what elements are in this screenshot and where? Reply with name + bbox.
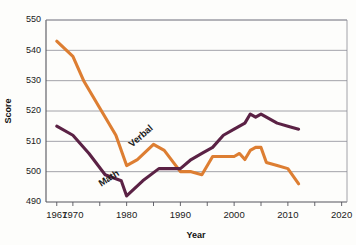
y-tick-label: 490	[26, 196, 41, 206]
y-tick-label: 520	[26, 105, 41, 115]
series-line-verbal	[57, 41, 299, 184]
y-axis-tick-labels: 490500510520530540550	[26, 14, 41, 206]
y-axis-title: Score	[3, 98, 13, 123]
sat-score-line-chart: 490500510520530540550 196719701980199020…	[0, 0, 356, 245]
y-tick-label: 510	[26, 136, 41, 146]
x-axis-tick-labels: 1967197019801990200020102020	[46, 209, 352, 220]
y-tick-label: 530	[26, 75, 41, 85]
x-tick-label: 1980	[116, 209, 137, 220]
x-axis-title: Year	[186, 230, 206, 240]
y-tick-label: 540	[26, 45, 41, 55]
x-tick-label: 2010	[277, 209, 298, 220]
data-series-group	[57, 41, 299, 196]
x-tick-label: 2000	[224, 209, 245, 220]
x-tick-label: 2020	[331, 209, 352, 220]
y-tick-label: 500	[26, 166, 41, 176]
chart-canvas: 490500510520530540550 196719701980199020…	[0, 0, 356, 245]
x-axis-ticks	[57, 202, 342, 206]
x-tick-label: 1990	[170, 209, 191, 220]
y-tick-label: 550	[26, 14, 41, 24]
x-tick-label: 1970	[62, 209, 83, 220]
